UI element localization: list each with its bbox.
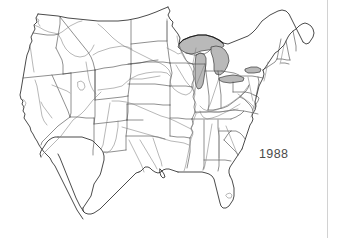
pacific-coastline (20, 14, 83, 219)
border-ia-mo (170, 86, 192, 87)
san-joaquin-river (41, 102, 52, 118)
border-ca-az (41, 117, 70, 145)
border-nm-tx-south (104, 150, 126, 152)
border-wy-co-south (95, 96, 128, 100)
des-moines-river (176, 65, 191, 87)
lake-okeechobee (226, 193, 232, 198)
columbia-river (34, 21, 82, 34)
trinity-river (153, 138, 162, 166)
border-ar-la (170, 136, 190, 138)
lake-huron-shape (211, 46, 229, 75)
florida-coastline (178, 172, 234, 208)
wabash-river (208, 78, 219, 110)
border-ma-ct (277, 59, 290, 60)
arkansas-river (112, 101, 191, 129)
tennessee-river (200, 104, 240, 119)
border-mt-wy (95, 64, 131, 70)
rio-grande-border (58, 137, 104, 208)
us-map-svg (0, 0, 338, 238)
border-vt-nh (286, 41, 290, 60)
gulf-coastline-east (139, 167, 178, 173)
border-wa-id (56, 17, 60, 48)
border-nm-tx (126, 120, 127, 150)
susquehanna-river (248, 77, 253, 101)
border-id-mt (60, 17, 95, 70)
border-or-id (56, 48, 63, 74)
year-label: 1988 (259, 147, 288, 161)
border-nd-mn (167, 21, 170, 63)
new-england-coastline (263, 23, 314, 70)
border-ut-az (70, 117, 94, 118)
border-ga-fl (204, 160, 231, 161)
minnesota-river (167, 48, 181, 54)
lake-ontario-shape (245, 67, 261, 73)
border-la-ms (187, 138, 190, 168)
border-mn-ia (170, 63, 193, 64)
southeast-coastline (229, 149, 242, 176)
border-az-nm (93, 118, 94, 155)
border-ut-co (94, 70, 95, 124)
pecos-river (103, 121, 118, 153)
northern-border-west (38, 7, 168, 21)
colorado-tx-river (129, 140, 144, 172)
platte-river (98, 72, 170, 90)
border-mo-ar (170, 118, 192, 119)
border-nv-ut (70, 73, 71, 117)
border-nd-sd (131, 41, 167, 44)
border-sc-ga (224, 140, 238, 155)
border-oh-mi (222, 71, 239, 75)
alabama-river (204, 124, 212, 169)
border-in-oh (218, 71, 221, 108)
brazos-river (140, 140, 157, 169)
border-ca-nv-diagonal (52, 75, 70, 117)
border-id-nv-ut (63, 70, 95, 74)
humboldt-river (52, 85, 70, 93)
rio-grande-river (101, 103, 110, 149)
border-ms-al (203, 120, 204, 170)
northern-border-lakes (168, 7, 180, 44)
border-ct-ri (281, 63, 289, 64)
border-tn-nc (231, 110, 244, 119)
border-co-nm (94, 120, 127, 124)
willamette-river (30, 45, 34, 72)
great-salt-lake-shape (78, 81, 85, 90)
border-ne-ks (128, 84, 170, 86)
hudson-river (264, 62, 268, 81)
state-borders-group (23, 17, 296, 171)
mississippi-river (177, 36, 196, 171)
northern-border-east (223, 10, 303, 44)
lake-michigan-shape (195, 53, 206, 89)
savannah-river (226, 126, 238, 155)
right-edge-divider (327, 0, 328, 238)
border-nh-me (293, 31, 296, 51)
border-nc-sc (231, 131, 245, 139)
map-figure-canvas: 1988 (0, 0, 338, 238)
rivers-group (21, 18, 284, 198)
baja-coastline (58, 154, 84, 212)
border-va-nc (244, 111, 258, 114)
